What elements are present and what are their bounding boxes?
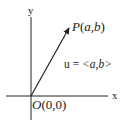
origin-label: O(0,0) xyxy=(32,97,66,112)
vector-diagram: y x P(a,b) u = <a,b> O(0,0) xyxy=(0,0,123,125)
point-p-label: P(a,b) xyxy=(71,19,105,34)
y-axis-label: y xyxy=(28,4,34,16)
vector-u-label: u = <a,b> xyxy=(64,58,112,71)
x-axis-label: x xyxy=(112,89,118,101)
